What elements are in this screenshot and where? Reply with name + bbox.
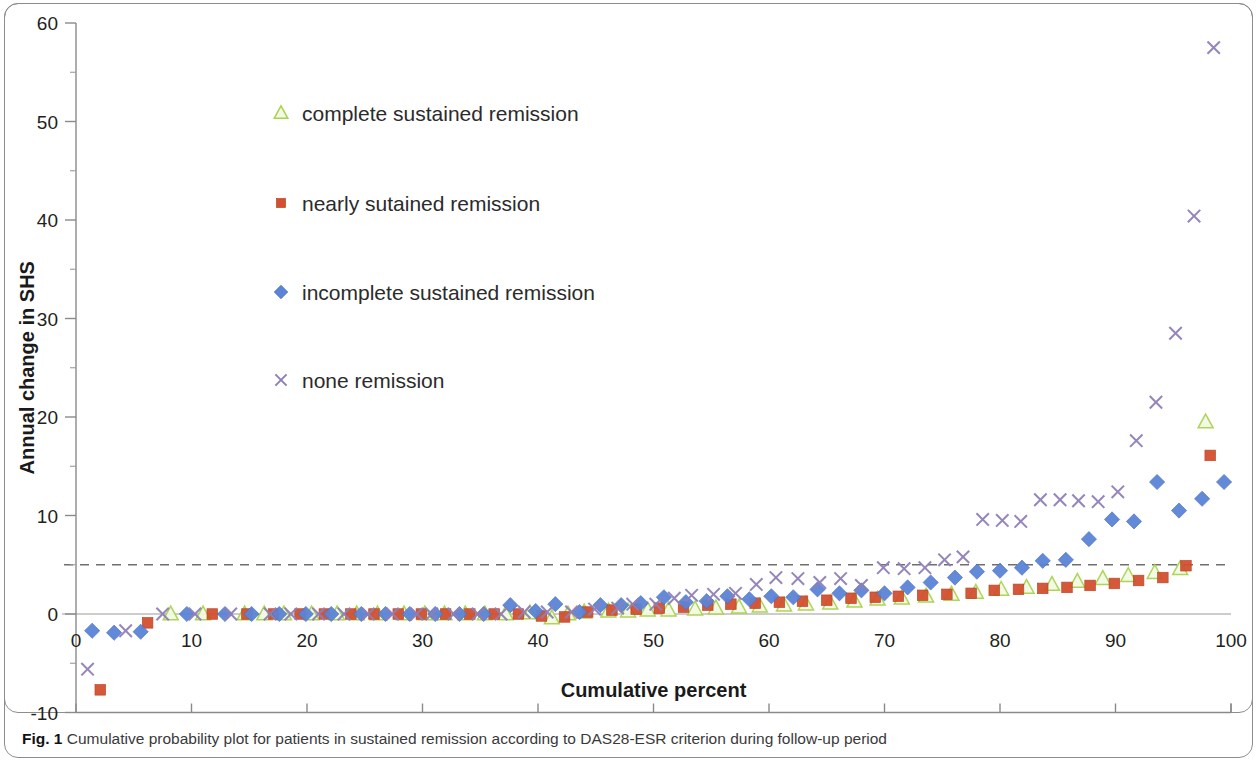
data-point [1035,553,1050,568]
series-3 [81,41,1220,675]
data-point [1126,514,1141,529]
y-tick-label: 0 [47,604,58,625]
cross-icon [275,374,286,385]
plot-area: -1001020304050600102030405060708090100Cu… [0,0,1259,773]
data-point [207,609,218,620]
triangle-open-icon [274,106,288,118]
data-point [1207,41,1219,53]
data-point [1216,474,1231,489]
y-tick-label: 60 [37,13,58,34]
legend-label: complete sustained remission [302,103,579,124]
y-tick-label: -10 [31,703,58,724]
figure-caption: Fig. 1 Cumulative probability plot for p… [22,729,1232,749]
x-tick-label: 100 [1215,630,1247,651]
diamond-icon [274,285,288,299]
data-point [142,618,153,629]
data-point [707,588,719,600]
data-point [685,589,697,601]
data-point [750,578,762,590]
diamond-icon [268,279,294,305]
data-point [1072,495,1084,507]
y-tick-label: 10 [37,506,58,527]
data-point [1158,572,1169,583]
data-point [1015,515,1027,527]
data-point [989,585,1000,596]
data-point [1054,494,1066,506]
data-point [1205,450,1216,461]
data-point [1188,210,1200,222]
y-tick-label: 40 [37,210,58,231]
legend-label: none remission [302,370,444,391]
x-tick-label: 20 [296,630,317,651]
data-point [1037,583,1048,594]
data-point [1095,571,1110,585]
data-point [821,595,832,606]
data-point [179,606,194,621]
data-point [947,570,962,585]
data-point [559,612,570,623]
data-point [1034,494,1046,506]
y-tick-label: 30 [37,309,58,330]
x-tick-label: 70 [874,630,895,651]
data-point [1130,434,1142,446]
square-icon [268,190,294,216]
data-point [877,562,889,574]
x-tick-label: 10 [181,630,202,651]
x-tick-label: 90 [1105,630,1126,651]
data-point [1112,486,1124,498]
data-point [1014,560,1029,575]
legend-item-1[interactable]: nearly sutained remission [268,190,540,216]
y-axis-title: Annual change in SHS [16,261,38,474]
data-point [792,572,804,584]
data-point [1092,496,1104,508]
data-point [1081,532,1096,547]
x-tick-label: 40 [527,630,548,651]
figure-container: -1001020304050600102030405060708090100Cu… [0,0,1259,773]
data-point [917,590,928,601]
data-point [942,589,953,600]
data-point [1013,584,1024,595]
data-point [1169,327,1181,339]
legend-label: nearly sutained remission [302,193,540,214]
x-tick-label: 0 [71,630,82,651]
data-point [1150,396,1162,408]
legend-item-0[interactable]: complete sustained remission [268,100,579,126]
data-point [919,562,931,574]
data-point [996,514,1008,526]
data-point [1195,491,1210,506]
data-point [923,575,938,590]
caption-label: Fig. 1 [22,730,62,747]
data-point [834,572,846,584]
x-axis-title: Cumulative percent [561,679,747,701]
y-tick-label: 50 [37,112,58,133]
data-point [81,663,93,675]
data-point [1181,560,1192,571]
y-tick-label: 20 [37,407,58,428]
data-point [1104,512,1119,527]
triangle-open-icon [268,100,294,126]
data-point [969,564,984,579]
legend-item-3[interactable]: none remission [268,367,444,393]
data-point [1133,575,1144,586]
x-tick-label: 50 [643,630,664,651]
data-point [1149,474,1164,489]
square-icon [277,199,286,208]
caption-text: Cumulative probability plot for patients… [67,730,887,747]
cross-icon [268,367,294,393]
data-point [1109,578,1120,589]
data-point [1062,582,1073,593]
data-point [893,591,904,602]
data-point [770,571,782,583]
data-point [107,625,122,640]
data-point [1171,503,1186,518]
data-point [957,551,969,563]
data-point [976,513,988,525]
x-tick-label: 30 [412,630,433,651]
data-point [95,685,106,696]
data-point [1085,580,1096,591]
legend-item-2[interactable]: incomplete sustained remission [268,279,595,305]
data-point [846,593,857,604]
data-point [119,625,131,637]
data-point [966,588,977,599]
data-point [1198,414,1213,428]
